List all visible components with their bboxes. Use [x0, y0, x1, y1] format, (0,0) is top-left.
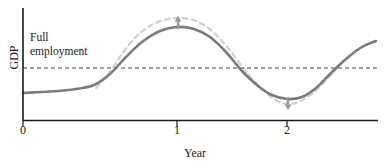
x-tick-label-1: 1 [167, 123, 187, 138]
amplified-gdp-curve [96, 18, 356, 104]
x-tick-label-0: 0 [13, 123, 33, 138]
full-employment-label-line2: employment [30, 44, 88, 58]
trough-down-arrow-head [285, 105, 292, 111]
chart-plot-area [0, 0, 384, 167]
gdp-business-cycle-chart: GDP Year Full employment 0 1 2 [0, 0, 384, 167]
x-axis-ticks [23, 121, 287, 128]
y-axis-label: GDP [7, 36, 22, 80]
full-employment-label-line1: Full [30, 30, 88, 44]
x-axis-label: Year [155, 146, 235, 161]
x-tick-label-2: 2 [277, 123, 297, 138]
full-employment-label: Full employment [30, 30, 88, 58]
